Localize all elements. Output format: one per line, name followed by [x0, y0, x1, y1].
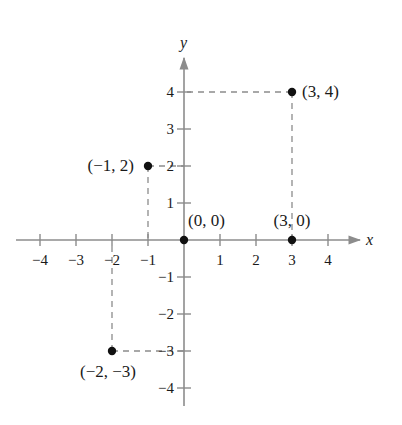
x-tick-label: 2: [252, 252, 260, 268]
x-tick-label: 4: [324, 252, 332, 268]
data-point: [108, 347, 116, 355]
y-axis-label: y: [178, 34, 188, 52]
y-tick-label: −4: [158, 380, 174, 396]
x-tick-label: 3: [288, 252, 296, 268]
x-tick-label: −2: [104, 252, 120, 268]
data-point: [288, 88, 296, 96]
y-tick-label: 4: [167, 84, 175, 100]
y-tick-label: −3: [158, 343, 174, 359]
point-label: (3, 4): [302, 82, 339, 101]
point-label: (0, 0): [188, 211, 225, 230]
data-point: [288, 236, 296, 244]
point-label: (−2, −3): [80, 362, 136, 381]
y-tick-label: −2: [158, 306, 174, 322]
x-axis-label: x: [365, 231, 373, 248]
y-tick-label: 3: [167, 121, 175, 137]
x-tick-label: −3: [68, 252, 84, 268]
y-tick-label: 1: [167, 195, 175, 211]
data-point: [144, 162, 152, 170]
y-tick-label: 2: [167, 158, 175, 174]
axes: [16, 58, 360, 406]
coordinate-plane: −4−3−2−112344321−1−2−3−4 (3, 4)(−1, 2)(0…: [0, 0, 402, 425]
data-point: [180, 236, 188, 244]
x-tick-label: 1: [216, 252, 224, 268]
y-tick-label: −1: [158, 269, 174, 285]
point-label: (−1, 2): [88, 156, 134, 175]
x-tick-label: −1: [140, 252, 156, 268]
point-labels: (3, 4)(−1, 2)(0, 0)(3, 0)(−2, −3): [80, 82, 339, 381]
x-tick-label: −4: [32, 252, 48, 268]
point-label: (3, 0): [274, 211, 311, 230]
